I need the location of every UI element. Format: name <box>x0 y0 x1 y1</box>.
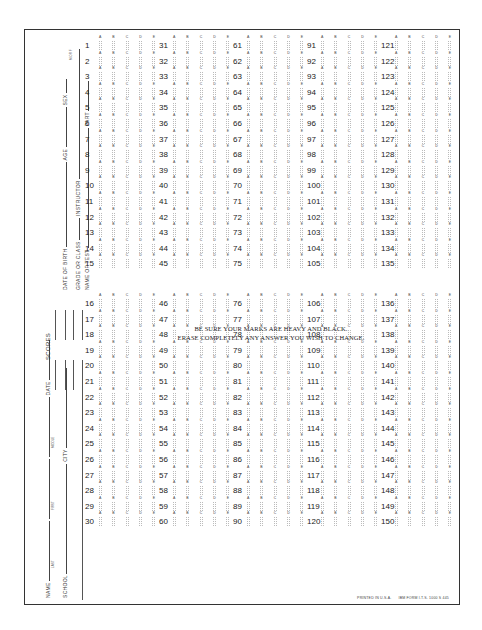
answer-bubble-b[interactable] <box>186 119 189 128</box>
answer-bubble-b[interactable] <box>186 471 189 480</box>
answer-bubble-e[interactable] <box>152 424 155 433</box>
answer-bubble-c[interactable] <box>422 166 425 175</box>
answer-bubble-a[interactable] <box>99 486 102 495</box>
answer-bubble-a[interactable] <box>395 315 398 324</box>
answer-bubble-e[interactable] <box>152 393 155 402</box>
answer-bubble-a[interactable] <box>395 88 398 97</box>
answer-bubble-c[interactable] <box>422 517 425 526</box>
answer-bubble-a[interactable] <box>321 244 324 253</box>
answer-bubble-e[interactable] <box>226 377 229 386</box>
answer-bubble-b[interactable] <box>186 361 189 370</box>
score-slot-8[interactable] <box>82 310 83 340</box>
answer-bubble-e[interactable] <box>374 119 377 128</box>
answer-bubble-c[interactable] <box>274 502 277 511</box>
answer-bubble-a[interactable] <box>247 166 250 175</box>
answer-bubble-a[interactable] <box>321 408 324 417</box>
answer-bubble-c[interactable] <box>126 486 129 495</box>
answer-bubble-b[interactable] <box>260 135 263 144</box>
answer-bubble-c[interactable] <box>200 502 203 511</box>
answer-bubble-a[interactable] <box>173 135 176 144</box>
answer-bubble-d[interactable] <box>287 150 290 159</box>
answer-bubble-b[interactable] <box>112 517 115 526</box>
answer-bubble-a[interactable] <box>247 213 250 222</box>
answer-bubble-d[interactable] <box>361 119 364 128</box>
answer-bubble-a[interactable] <box>173 41 176 50</box>
answer-bubble-a[interactable] <box>395 361 398 370</box>
answer-bubble-e[interactable] <box>300 181 303 190</box>
answer-bubble-c[interactable] <box>422 57 425 66</box>
answer-bubble-d[interactable] <box>139 228 142 237</box>
answer-bubble-d[interactable] <box>139 315 142 324</box>
answer-bubble-c[interactable] <box>200 377 203 386</box>
answer-bubble-c[interactable] <box>274 299 277 308</box>
answer-bubble-e[interactable] <box>448 135 451 144</box>
answer-bubble-c[interactable] <box>348 424 351 433</box>
answer-bubble-c[interactable] <box>200 244 203 253</box>
answer-bubble-e[interactable] <box>374 88 377 97</box>
answer-bubble-a[interactable] <box>247 346 250 355</box>
answer-bubble-d[interactable] <box>435 346 438 355</box>
answer-bubble-d[interactable] <box>139 41 142 50</box>
answer-bubble-d[interactable] <box>287 299 290 308</box>
answer-bubble-a[interactable] <box>321 119 324 128</box>
answer-bubble-c[interactable] <box>348 244 351 253</box>
answer-bubble-e[interactable] <box>152 135 155 144</box>
answer-bubble-d[interactable] <box>361 72 364 81</box>
answer-bubble-d[interactable] <box>435 72 438 81</box>
answer-bubble-a[interactable] <box>99 424 102 433</box>
answer-bubble-a[interactable] <box>321 57 324 66</box>
answer-bubble-b[interactable] <box>260 103 263 112</box>
answer-bubble-d[interactable] <box>213 213 216 222</box>
answer-bubble-a[interactable] <box>321 88 324 97</box>
answer-bubble-a[interactable] <box>173 424 176 433</box>
answer-bubble-b[interactable] <box>408 88 411 97</box>
answer-bubble-e[interactable] <box>448 57 451 66</box>
answer-bubble-e[interactable] <box>226 259 229 268</box>
answer-bubble-c[interactable] <box>274 471 277 480</box>
answer-bubble-d[interactable] <box>213 361 216 370</box>
answer-bubble-b[interactable] <box>112 315 115 324</box>
answer-bubble-c[interactable] <box>348 486 351 495</box>
answer-bubble-c[interactable] <box>200 41 203 50</box>
answer-bubble-b[interactable] <box>334 361 337 370</box>
answer-bubble-c[interactable] <box>348 439 351 448</box>
answer-bubble-d[interactable] <box>435 377 438 386</box>
answer-bubble-e[interactable] <box>374 455 377 464</box>
answer-bubble-e[interactable] <box>374 135 377 144</box>
answer-bubble-b[interactable] <box>408 213 411 222</box>
answer-bubble-c[interactable] <box>126 299 129 308</box>
answer-bubble-b[interactable] <box>408 377 411 386</box>
answer-bubble-a[interactable] <box>247 259 250 268</box>
answer-bubble-a[interactable] <box>247 377 250 386</box>
answer-bubble-a[interactable] <box>395 346 398 355</box>
answer-bubble-a[interactable] <box>247 88 250 97</box>
answer-bubble-e[interactable] <box>226 228 229 237</box>
answer-bubble-e[interactable] <box>448 103 451 112</box>
answer-bubble-d[interactable] <box>287 197 290 206</box>
answer-bubble-a[interactable] <box>99 502 102 511</box>
answer-bubble-e[interactable] <box>226 408 229 417</box>
answer-bubble-c[interactable] <box>348 181 351 190</box>
answer-bubble-c[interactable] <box>348 408 351 417</box>
answer-bubble-a[interactable] <box>395 408 398 417</box>
answer-bubble-a[interactable] <box>395 244 398 253</box>
answer-bubble-e[interactable] <box>152 377 155 386</box>
answer-bubble-e[interactable] <box>300 455 303 464</box>
answer-bubble-a[interactable] <box>247 41 250 50</box>
answer-bubble-b[interactable] <box>334 377 337 386</box>
answer-bubble-e[interactable] <box>300 135 303 144</box>
answer-bubble-a[interactable] <box>247 103 250 112</box>
answer-bubble-a[interactable] <box>395 103 398 112</box>
answer-bubble-d[interactable] <box>435 393 438 402</box>
answer-bubble-d[interactable] <box>139 377 142 386</box>
answer-bubble-a[interactable] <box>395 213 398 222</box>
answer-bubble-c[interactable] <box>348 377 351 386</box>
answer-bubble-c[interactable] <box>200 103 203 112</box>
answer-bubble-e[interactable] <box>374 57 377 66</box>
answer-bubble-a[interactable] <box>99 166 102 175</box>
answer-bubble-c[interactable] <box>274 455 277 464</box>
answer-bubble-a[interactable] <box>173 517 176 526</box>
answer-bubble-a[interactable] <box>247 181 250 190</box>
answer-bubble-c[interactable] <box>200 181 203 190</box>
answer-bubble-c[interactable] <box>126 408 129 417</box>
